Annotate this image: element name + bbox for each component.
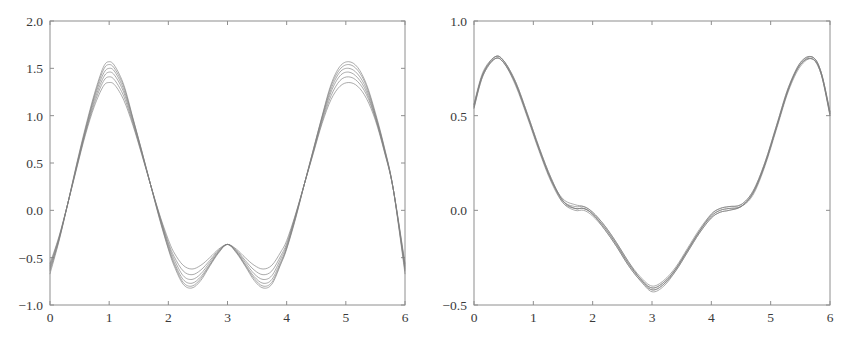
- data-curve: [474, 58, 830, 288]
- y-tick-label: 1.0: [26, 109, 43, 124]
- y-tick-label: 0.5: [26, 156, 43, 171]
- x-tick-label: 0: [471, 310, 478, 325]
- x-tick-label: 1: [106, 310, 113, 325]
- plot-frame: [474, 21, 830, 305]
- data-curve: [50, 77, 405, 275]
- data-curve: [474, 58, 830, 290]
- x-tick-label: 1: [530, 310, 537, 325]
- x-tick-label: 5: [767, 310, 774, 325]
- right-plot-panel: 0123456−0.50.00.51.0: [423, 0, 847, 342]
- x-tick-label: 2: [589, 310, 596, 325]
- x-tick-label: 0: [47, 310, 54, 325]
- y-tick-label: −1.0: [19, 298, 44, 313]
- y-tick-label: 2.0: [26, 14, 43, 29]
- data-curve: [50, 72, 405, 279]
- x-tick-label: 4: [708, 310, 715, 325]
- data-curve: [50, 82, 405, 269]
- y-tick-label: 1.0: [450, 14, 467, 29]
- data-curve: [50, 62, 405, 288]
- y-tick-label: 0.0: [26, 203, 43, 218]
- x-tick-label: 4: [283, 310, 290, 325]
- data-curve: [474, 56, 830, 286]
- figure-root: 0123456−1.0−0.50.00.51.01.52.0 0123456−0…: [0, 0, 847, 342]
- x-tick-label: 3: [649, 310, 656, 325]
- data-curve: [474, 58, 830, 290]
- y-tick-label: −0.5: [19, 251, 44, 266]
- x-tick-label: 6: [402, 310, 409, 325]
- y-tick-label: 1.5: [26, 61, 43, 76]
- plot-frame: [50, 21, 405, 305]
- left-plot-panel: 0123456−1.0−0.50.00.51.01.52.0: [0, 0, 424, 342]
- y-tick-label: 0.5: [450, 109, 467, 124]
- data-curve: [50, 65, 405, 287]
- y-tick-label: −0.5: [443, 298, 468, 313]
- right-plot-svg: 0123456−0.50.00.51.0: [423, 0, 847, 342]
- data-curve: [474, 56, 830, 288]
- x-tick-label: 5: [342, 310, 349, 325]
- x-tick-label: 2: [165, 310, 172, 325]
- x-tick-label: 3: [224, 310, 231, 325]
- x-tick-label: 6: [827, 310, 834, 325]
- data-curve: [50, 68, 405, 283]
- left-plot-svg: 0123456−1.0−0.50.00.51.01.52.0: [0, 0, 424, 342]
- data-curve: [474, 56, 830, 292]
- y-tick-label: 0.0: [450, 203, 467, 218]
